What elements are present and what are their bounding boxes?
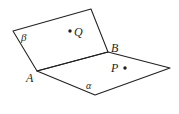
geometry-figure: β α A B P Q <box>0 0 179 114</box>
point-q-dot <box>68 29 71 32</box>
point-a-label: A <box>26 72 33 84</box>
plane-beta-label: β <box>21 32 26 43</box>
figure-canvas <box>0 0 179 114</box>
point-p-label: P <box>111 62 118 74</box>
point-q-label: Q <box>74 26 83 38</box>
point-b-label: B <box>111 42 118 54</box>
point-p-dot <box>123 66 126 69</box>
plane-alpha-label: α <box>86 81 91 91</box>
